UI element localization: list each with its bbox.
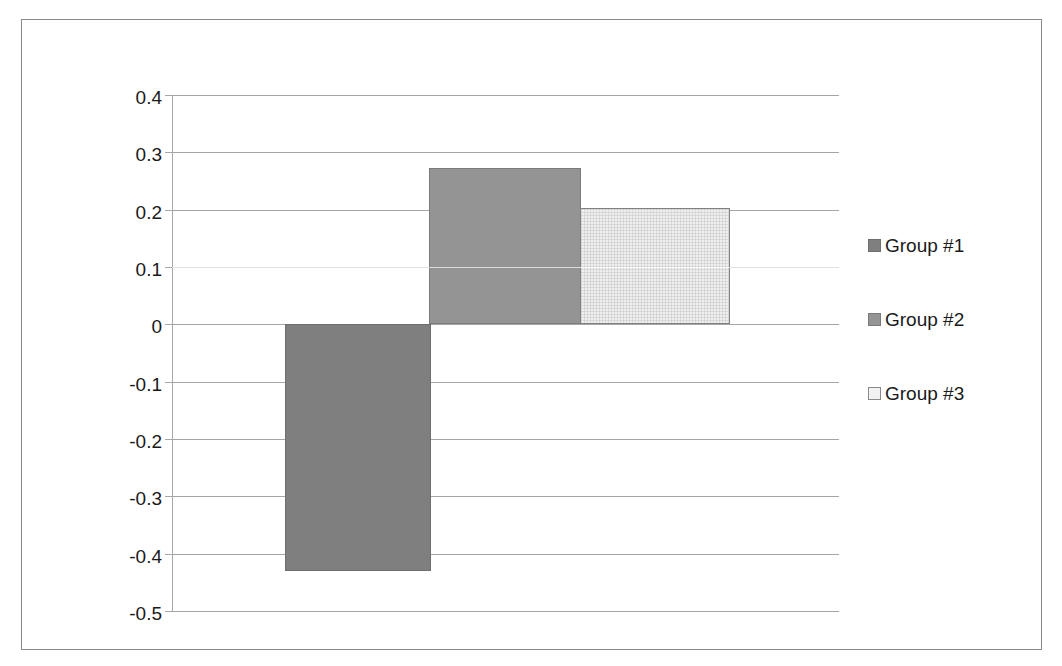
tick-mark bbox=[165, 496, 172, 497]
y-tick-label: -0.3 bbox=[129, 489, 162, 508]
chart-legend: Group #1 Group #2 Group #3 bbox=[868, 232, 1038, 454]
y-tick-label: -0.2 bbox=[129, 432, 162, 451]
y-tick-label: 0.1 bbox=[136, 260, 162, 279]
y-tick-label: -0.1 bbox=[129, 375, 162, 394]
gridline bbox=[172, 554, 839, 555]
y-axis-tick-labels: 0.4 0.3 0.2 0.1 0 -0.1 -0.2 -0.3 -0.4 -0… bbox=[82, 95, 162, 611]
bar-group-2[interactable] bbox=[429, 168, 581, 324]
gridline bbox=[172, 95, 839, 96]
gridline bbox=[172, 152, 839, 153]
tick-mark bbox=[165, 554, 172, 555]
plot-area bbox=[172, 95, 839, 611]
tick-mark bbox=[165, 439, 172, 440]
legend-item-group-3[interactable]: Group #3 bbox=[868, 380, 1038, 406]
gridline bbox=[172, 439, 839, 440]
y-tick-label: -0.4 bbox=[129, 547, 162, 566]
tick-mark bbox=[165, 324, 172, 325]
legend-item-group-2[interactable]: Group #2 bbox=[868, 306, 1038, 332]
gridline bbox=[172, 382, 839, 383]
tick-mark bbox=[165, 382, 172, 383]
y-tick-label: -0.5 bbox=[129, 604, 162, 623]
legend-swatch-icon bbox=[868, 387, 881, 400]
y-tick-label: 0.3 bbox=[136, 145, 162, 164]
legend-swatch-icon bbox=[868, 239, 881, 252]
tick-mark bbox=[165, 95, 172, 96]
bar-group-1[interactable] bbox=[285, 324, 431, 571]
gridline-zero bbox=[172, 324, 839, 325]
y-tick-label: 0.4 bbox=[136, 88, 162, 107]
legend-item-group-1[interactable]: Group #1 bbox=[868, 232, 1038, 258]
tick-mark bbox=[165, 152, 172, 153]
legend-swatch-icon bbox=[868, 313, 881, 326]
legend-label: Group #2 bbox=[885, 310, 964, 329]
gridline bbox=[172, 496, 839, 497]
legend-label: Group #3 bbox=[885, 384, 964, 403]
legend-label: Group #1 bbox=[885, 236, 964, 255]
chart-frame: 0.4 0.3 0.2 0.1 0 -0.1 -0.2 -0.3 -0.4 -0… bbox=[21, 19, 1042, 650]
tick-mark bbox=[165, 210, 172, 211]
tick-mark bbox=[165, 267, 172, 268]
y-tick-label: 0.2 bbox=[136, 203, 162, 222]
bar-group-3[interactable] bbox=[580, 208, 730, 324]
tick-mark bbox=[165, 611, 172, 612]
gridline bbox=[172, 611, 839, 612]
y-tick-label: 0 bbox=[151, 317, 162, 336]
